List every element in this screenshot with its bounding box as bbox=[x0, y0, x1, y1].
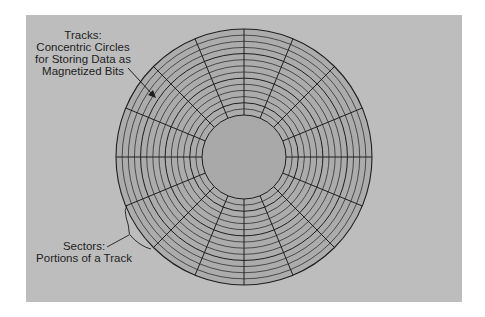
sectors-label: Sectors: Portions of a Track bbox=[30, 240, 138, 264]
tracks-label-line-1: Tracks: bbox=[28, 29, 138, 41]
sectors-label-line-1: Sectors: bbox=[30, 240, 138, 252]
tracks-label-line-2: Concentric Circles bbox=[28, 41, 138, 53]
tracks-label: Tracks: Concentric Circles for Storing D… bbox=[28, 29, 138, 77]
disc-hub bbox=[202, 115, 286, 199]
sectors-label-line-2: Portions of a Track bbox=[30, 252, 138, 264]
tracks-label-line-4: Magnetized Bits bbox=[28, 65, 138, 77]
tracks-label-line-3: for Storing Data as bbox=[28, 53, 138, 65]
disk-platter bbox=[116, 29, 372, 285]
